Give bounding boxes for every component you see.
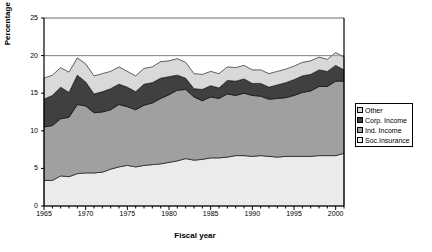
legend-item[interactable]: Corp. Income <box>357 115 410 125</box>
x-tick-label: 1995 <box>279 210 309 217</box>
y-tick-label-wrap: 25 <box>16 14 38 22</box>
legend-swatch-icon <box>357 137 363 143</box>
chart-legend: OtherCorp. IncomeInd. IncomeSoc.Insuranc… <box>355 103 413 147</box>
legend-swatch-icon <box>357 127 363 133</box>
y-tick-label: 25 <box>20 14 38 22</box>
x-tick-label: 1970 <box>71 210 101 217</box>
x-tick-label: 1980 <box>154 210 184 217</box>
x-axis-title: Fiscal year <box>120 231 270 240</box>
y-tick-label: 20 <box>20 52 38 60</box>
legend-label: Corp. Income <box>365 116 407 125</box>
y-tick-label: 15 <box>20 89 38 97</box>
legend-label: Ind. Income <box>365 126 402 135</box>
legend-swatch-icon <box>357 107 363 113</box>
legend-item[interactable]: Other <box>357 105 410 115</box>
y-tick-label-wrap: 15 <box>16 89 38 97</box>
y-tick-label: 0 <box>20 202 38 210</box>
y-tick-label-wrap: 10 <box>16 127 38 135</box>
chart-figure: Percentage of GDP 0510152025 19651970197… <box>0 0 432 252</box>
x-tick-label: 1990 <box>237 210 267 217</box>
legend-item[interactable]: Ind. Income <box>357 125 410 135</box>
x-tick-label: 1975 <box>112 210 142 217</box>
y-tick-label-wrap: 20 <box>16 52 38 60</box>
legend-label: Soc.Insurance <box>365 136 410 145</box>
legend-label: Other <box>365 106 383 115</box>
x-tick-label: 1985 <box>196 210 226 217</box>
y-tick-label-wrap: 0 <box>16 202 38 210</box>
legend-item[interactable]: Soc.Insurance <box>357 135 410 145</box>
legend-swatch-icon <box>357 117 363 123</box>
y-tick-label: 5 <box>20 164 38 172</box>
x-tick-label: 2000 <box>321 210 351 217</box>
y-tick-label: 10 <box>20 127 38 135</box>
y-tick-label-wrap: 5 <box>16 164 38 172</box>
x-tick-label: 1965 <box>29 210 59 217</box>
